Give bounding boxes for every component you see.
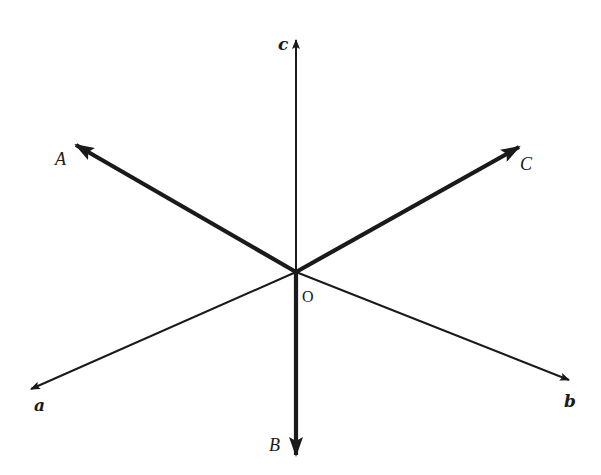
- vector-b-label: b: [564, 391, 576, 411]
- origin-label: O: [302, 288, 314, 305]
- vector-C-arrow: [296, 147, 519, 272]
- vector-A-label: A: [54, 149, 67, 169]
- vector-b-arrow: [296, 272, 569, 380]
- vector-diagram: cabACBO: [0, 0, 601, 475]
- vector-B-label: B: [269, 435, 280, 455]
- vector-A-arrow: [76, 145, 296, 272]
- vector-C-label: C: [520, 154, 533, 174]
- vector-c-label: c: [278, 34, 289, 54]
- vector-a-arrow: [31, 272, 296, 389]
- vector-a-label: a: [34, 395, 45, 415]
